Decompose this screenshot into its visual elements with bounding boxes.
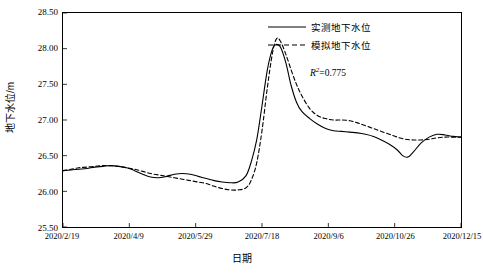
x-tick-label: 2020/10/26 [376,231,415,241]
x-axis-ticks: 2020/2/192020/4/92020/5/292020/7/182020/… [0,229,483,249]
x-tick-label: 2020/2/19 [45,231,79,241]
x-tick-label: 2020/7/18 [245,231,279,241]
legend-label-simulated: 模拟地下水位 [311,38,371,52]
x-tick-label: 2020/12/15 [443,231,482,241]
x-axis-title: 日期 [0,250,483,265]
y-axis-title: 地下水位/m [2,33,17,183]
x-tick-label: 2020/4/9 [114,231,144,241]
legend: 实测地下水位 模拟地下水位 [268,18,418,54]
y-tick-label: 26.00 [4,187,58,197]
x-tick-label: 2020/5/29 [178,231,212,241]
groundwater-level-chart: 25.5026.0026.5027.0027.5028.0028.50 2020… [0,0,483,279]
legend-item-observed: 实测地下水位 [268,18,418,36]
legend-item-simulated: 模拟地下水位 [268,36,418,54]
r-squared-annotation: R2=0.775 [310,66,346,78]
legend-label-observed: 实测地下水位 [311,20,371,34]
series-line-simulated [63,38,461,190]
series-line-observed [63,44,461,183]
r2-value: =0.775 [319,68,346,78]
y-tick-label: 28.50 [4,7,58,17]
legend-solid-line-icon [268,22,306,32]
x-tick-label: 2020/9/6 [314,231,344,241]
legend-dashed-line-icon [268,40,306,50]
